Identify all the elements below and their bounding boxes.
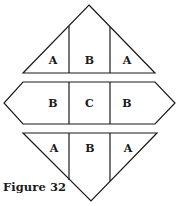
middle-label-center: C bbox=[85, 97, 94, 110]
top-label-right: A bbox=[122, 54, 132, 67]
quilt-block-diagram: A B A B C B A B A bbox=[0, 0, 178, 206]
top-triangle: A B A bbox=[23, 5, 155, 73]
top-label-left: A bbox=[48, 54, 58, 67]
middle-label-left: B bbox=[48, 97, 57, 110]
top-label-center: B bbox=[85, 54, 94, 67]
middle-label-right: B bbox=[122, 97, 131, 110]
middle-hexagon: B C B bbox=[4, 82, 175, 124]
bottom-label-center: B bbox=[85, 142, 94, 155]
figure-caption: Figure 32 bbox=[3, 180, 66, 194]
bottom-label-left: A bbox=[49, 142, 59, 155]
bottom-label-right: A bbox=[123, 142, 133, 155]
